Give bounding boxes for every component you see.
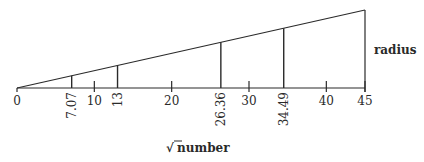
x-axis-title: number: [177, 141, 230, 155]
y-axis-title: radius: [374, 43, 417, 57]
tick-label: 30: [241, 94, 256, 108]
tick-label: 0: [13, 94, 21, 108]
tick-label: 45: [357, 94, 372, 108]
marked-value-label: 13: [111, 92, 125, 107]
radius-vs-sqrt-number-diagram: 010203040457.071326.3634.49 radius √ num…: [0, 0, 424, 162]
sqrt-symbol: √: [166, 141, 174, 155]
tick-label: 20: [164, 94, 179, 108]
tick-label: 40: [319, 94, 334, 108]
diagram-labels: 010203040457.071326.3634.49: [13, 92, 372, 126]
marked-value-label: 7.07: [65, 92, 79, 119]
marked-value-label: 26.36: [214, 92, 228, 126]
x-axis-title-group: √ number: [166, 141, 230, 155]
diagram-geometry: [17, 10, 365, 92]
tick-label: 10: [87, 94, 102, 108]
radius-slope-line: [17, 10, 365, 88]
marked-value-label: 34.49: [277, 92, 291, 126]
